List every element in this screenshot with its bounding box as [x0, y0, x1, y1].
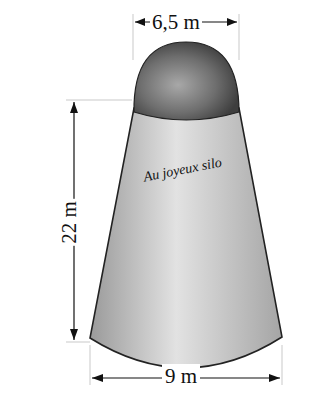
- cone-body: [90, 108, 282, 368]
- height-label: 22 m: [57, 199, 82, 246]
- bottom-diameter-label: 9 m: [162, 364, 200, 389]
- top-diameter-label: 6,5 m: [150, 10, 202, 35]
- silo-diagram: 6,5 m 22 m Au joyeux silo 9 m: [0, 0, 312, 409]
- silo-drawing: [0, 0, 312, 409]
- dome: [134, 42, 239, 120]
